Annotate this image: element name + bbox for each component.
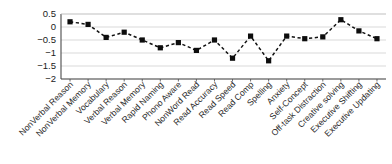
data-point-marker: Read Accuracy: -0.5 <box>212 37 217 42</box>
y-tick-label: 0.5 <box>43 8 56 19</box>
y-tick-label: −0.5 <box>37 34 56 45</box>
data-point-marker: Off-task Distraction: -0.38 <box>320 34 325 39</box>
chart-figure: 0.50−0.5−1−1.5−2NonVerbal Reason: 0.2Non… <box>0 0 392 164</box>
y-tick-label: −2 <box>45 73 56 84</box>
data-point-marker: Executive Shifting: -0.15 <box>356 28 361 33</box>
data-point-marker: Phono Aware: -0.6 <box>176 40 181 45</box>
data-point-marker: NonVerbal Memory: 0.1 <box>85 22 90 27</box>
data-point-marker: Verbal Memory: -0.5 <box>140 37 145 42</box>
data-point-marker: Creative solving: 0.28 <box>338 17 343 22</box>
data-point-marker: NonVerbal Reason: 0.2 <box>67 19 72 24</box>
data-point-marker: Executive Updating: -0.45 <box>374 36 379 41</box>
data-point-marker: Rapid Naming: -0.8 <box>158 45 163 50</box>
data-point-marker: NonWord Read: -0.9 <box>194 48 199 53</box>
y-tick-label: −1.5 <box>37 60 56 71</box>
data-point-marker: Spelling: -1.3 <box>266 58 271 63</box>
data-point-marker: Read Speed: -1.2 <box>230 56 235 61</box>
y-tick-label: −1 <box>45 47 56 58</box>
data-point-marker: Vocabulary: -0.4 <box>104 35 109 40</box>
data-point-marker: Self-Concept: -0.45 <box>302 36 307 41</box>
data-point-marker: Anxiety: -0.35 <box>284 34 289 39</box>
data-point-marker: Read Comp: -0.35 <box>248 34 253 39</box>
line-chart: 0.50−0.5−1−1.5−2NonVerbal Reason: 0.2Non… <box>0 0 392 164</box>
y-tick-label: 0 <box>51 21 56 32</box>
data-point-marker: Verbal Reason: -0.2 <box>122 30 127 35</box>
